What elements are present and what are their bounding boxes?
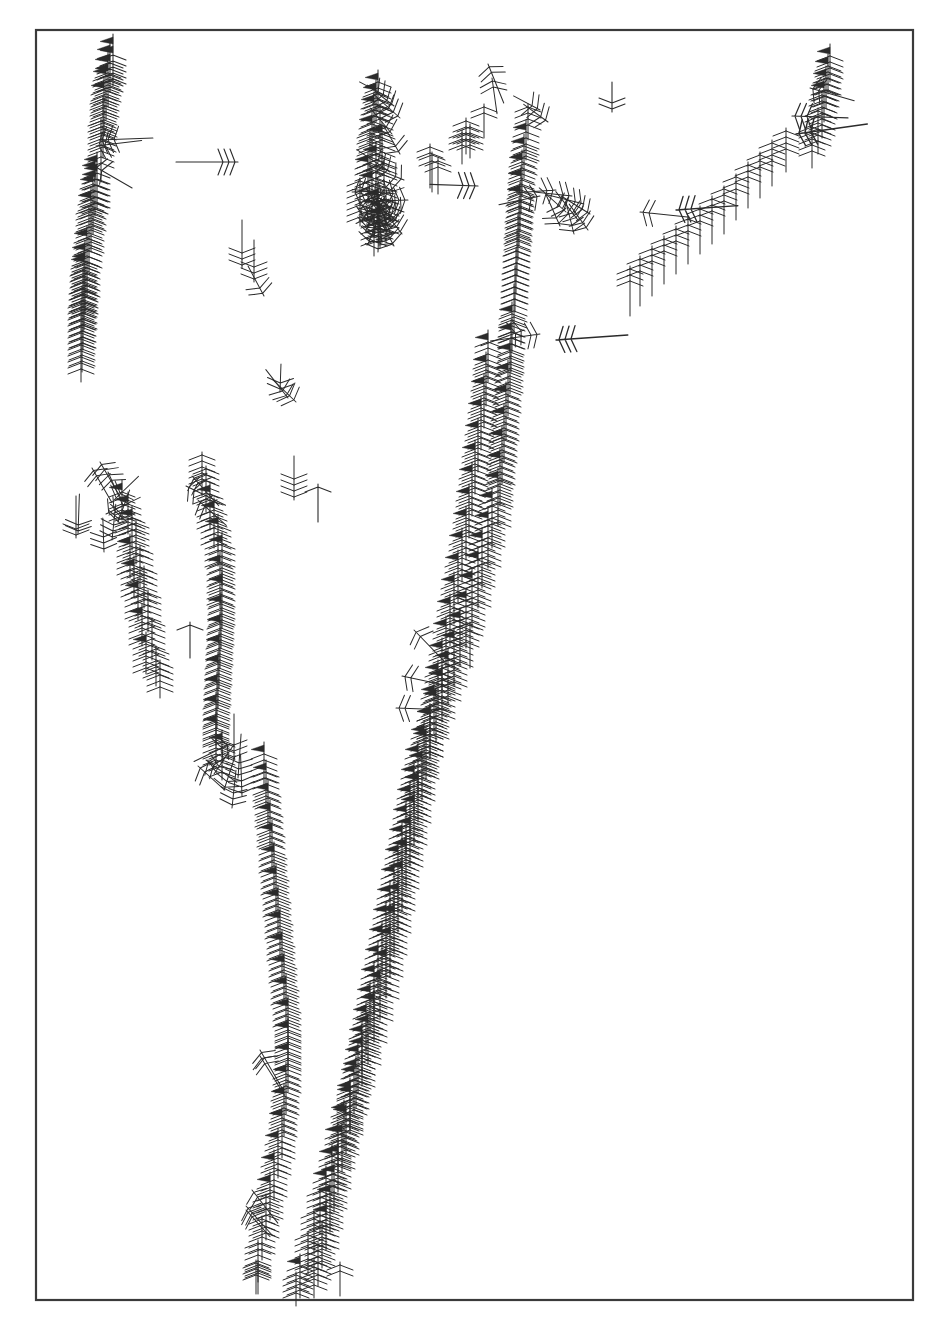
figure-root (0, 0, 941, 1317)
wind-barb-plot-canvas (0, 0, 941, 1317)
